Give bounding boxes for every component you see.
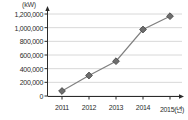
line-chart: (kW) 0 200,000 400,000 600,000 800,000 1… (0, 0, 188, 120)
x-tick-label-2014: 2014 (136, 104, 150, 111)
data-point-2011 (59, 88, 66, 95)
x-tick-label-2015: 2015(년) (160, 104, 184, 114)
x-tick-label-2011: 2011 (55, 104, 69, 111)
x-tick-label-2013: 2013 (109, 104, 123, 111)
x-axis (48, 94, 185, 99)
gridlines (48, 14, 182, 96)
data-point-2012 (86, 72, 93, 79)
x-tick-label-2012: 2012 (82, 104, 96, 111)
plot-area (0, 0, 188, 120)
